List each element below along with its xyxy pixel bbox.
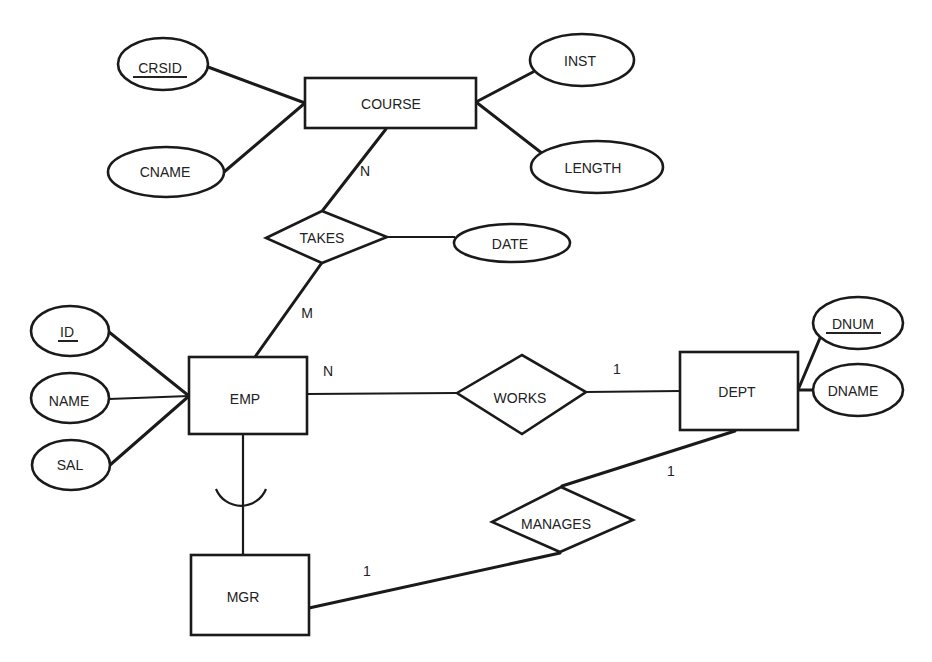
attribute-name-label: NAME <box>49 393 89 409</box>
attribute-crsid-label: CRSID <box>138 60 182 76</box>
edge-id-emp <box>109 332 189 396</box>
entity-mgr-label: MGR <box>227 589 260 605</box>
edge-emp-works <box>307 393 457 394</box>
cardinality-dept-manages: 1 <box>667 463 675 479</box>
relationship-manages[interactable]: MANAGES <box>492 487 633 552</box>
edge-dept-manages <box>562 431 735 486</box>
edge-works-dept <box>586 391 680 392</box>
entity-dept[interactable]: DEPT <box>680 352 798 430</box>
entity-course-label: COURSE <box>361 96 421 112</box>
attribute-date[interactable]: DATE <box>454 224 570 262</box>
attribute-name[interactable]: NAME <box>31 373 109 423</box>
entity-emp-label: EMP <box>230 391 260 407</box>
entity-mgr[interactable]: MGR <box>191 555 309 635</box>
edges <box>109 67 820 608</box>
cardinality-emp-works: N <box>323 363 333 379</box>
edge-sal-emp <box>110 396 189 465</box>
entity-course[interactable]: COURSE <box>305 78 476 128</box>
relationship-manages-label: MANAGES <box>521 516 591 532</box>
attribute-dname[interactable]: DNAME <box>813 364 903 416</box>
attribute-crsid[interactable]: CRSID <box>118 38 208 90</box>
attribute-cname-label: CNAME <box>140 164 191 180</box>
entity-emp[interactable]: EMP <box>189 357 307 434</box>
attribute-sal-label: SAL <box>57 457 84 473</box>
edge-crsid-course <box>208 67 305 103</box>
attribute-length[interactable]: LENGTH <box>531 141 663 193</box>
subset-arc-icon <box>216 489 266 506</box>
attribute-sal[interactable]: SAL <box>32 440 110 490</box>
attribute-length-label: LENGTH <box>565 160 622 176</box>
attribute-cname[interactable]: CNAME <box>108 147 224 197</box>
attribute-inst[interactable]: INST <box>530 34 634 86</box>
edge-course-takes <box>323 129 386 210</box>
cardinality-emp-takes: M <box>301 305 313 321</box>
edge-course-length <box>476 102 543 154</box>
cardinality-course-takes: N <box>360 163 370 179</box>
entity-dept-label: DEPT <box>718 384 756 400</box>
attribute-dnum-label: DNUM <box>832 316 874 332</box>
attribute-inst-label: INST <box>564 53 596 69</box>
edge-name-emp <box>109 396 189 399</box>
er-diagram: COURSE EMP DEPT MGR TAKES WORKS MANAGES … <box>0 0 932 662</box>
edge-cname-course <box>224 103 305 172</box>
edge-mgr-manages <box>309 553 560 608</box>
edge-course-inst <box>476 72 533 102</box>
attribute-date-label: DATE <box>492 236 528 252</box>
cardinality-dept-works: 1 <box>613 361 621 377</box>
attribute-id-label: ID <box>60 324 74 340</box>
relationship-takes-label: TAKES <box>300 230 345 246</box>
relationship-works[interactable]: WORKS <box>457 355 586 434</box>
attribute-id[interactable]: ID <box>31 306 109 356</box>
attribute-dnum[interactable]: DNUM <box>813 297 903 349</box>
relationship-takes[interactable]: TAKES <box>266 211 387 263</box>
attribute-dname-label: DNAME <box>828 383 879 399</box>
cardinality-mgr-manages: 1 <box>363 563 371 579</box>
relationship-works-label: WORKS <box>494 390 547 406</box>
